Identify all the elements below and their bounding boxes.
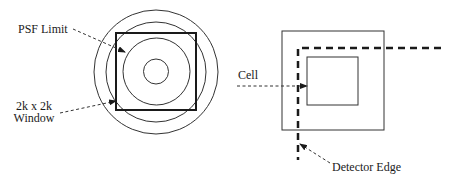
left-panel (60, 10, 218, 134)
psf-limit-ring (123, 38, 190, 105)
cell-label: Cell (238, 69, 258, 81)
window-label-line2: Window (12, 112, 56, 124)
right-panel (237, 31, 441, 163)
inner-ring (144, 59, 169, 84)
detector-edge-line (298, 48, 441, 160)
second-ring (106, 22, 206, 122)
cell-square (307, 57, 358, 105)
psf-limit-label: PSF Limit (18, 23, 68, 35)
detector-edge-pointer (300, 144, 330, 163)
diagram-canvas: PSF Limit 2k x 2k Window Cell Detector E… (0, 0, 453, 179)
window-square (116, 33, 196, 110)
detector-edge-label: Detector Edge (332, 161, 401, 173)
outer-ring (94, 10, 218, 134)
